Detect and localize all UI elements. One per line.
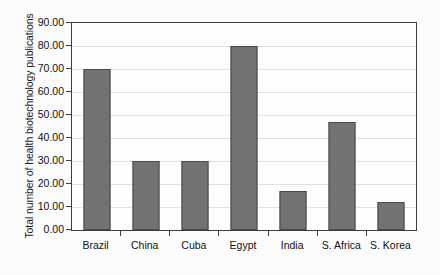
bar-slot [219,23,268,230]
y-axis-tick-labels: 0.0010.0020.0030.0040.0050.0060.0070.008… [14,22,64,231]
bar-slot [170,23,219,230]
y-axis-tick-label: 90.00 [18,17,64,27]
y-axis-tick-label: 40.00 [18,132,64,142]
y-axis-tick-mark [66,183,71,184]
y-axis-tick-label: 10.00 [18,201,64,211]
bar-slot [269,23,318,230]
x-axis-tick-mark [169,231,170,236]
bar-s-africa[interactable] [329,122,356,230]
x-axis-tick-mark [317,231,318,236]
bar-brazil[interactable] [83,69,110,230]
x-axis-label-brazil: Brazil [71,239,120,251]
bar-egypt[interactable] [230,46,257,230]
bar-chart: Total number of health biotechnology pub… [0,0,440,275]
x-axis-category-labels: BrazilChinaCubaEgyptIndiaS. AfricaS. Kor… [71,239,417,259]
bar-slot [121,23,170,230]
x-axis-tick-mark [366,231,367,236]
x-axis-tick-mark [268,231,269,236]
x-axis-tick-mark [120,231,121,236]
x-axis-label-cuba: Cuba [169,239,218,251]
bar-slot [72,23,121,230]
bar-slot [367,23,416,230]
y-axis-tick-label: 20.00 [18,178,64,188]
y-axis-tick-mark [66,206,71,207]
bar-s-korea[interactable] [378,202,405,230]
x-axis-tick-mark [218,231,219,236]
x-axis-tick-marks [71,231,417,237]
bar-slot [318,23,367,230]
y-axis-tick-mark [66,229,71,230]
x-axis-label-china: China [120,239,169,251]
y-axis-tick-label: 0.00 [18,224,64,234]
y-axis-tick-label: 50.00 [18,109,64,119]
bar-china[interactable] [132,161,159,230]
y-axis-tick-mark [66,114,71,115]
x-axis-label-s-africa: S. Africa [317,239,366,251]
y-axis-tick-label: 30.00 [18,155,64,165]
y-axis-tick-mark [66,137,71,138]
y-axis-tick-label: 80.00 [18,40,64,50]
bar-india[interactable] [280,191,307,230]
bars-group [72,23,416,230]
y-axis-tick-label: 70.00 [18,63,64,73]
y-axis-tick-label: 60.00 [18,86,64,96]
y-axis-tick-mark [66,91,71,92]
x-axis-label-india: India [268,239,317,251]
y-axis-tick-mark [66,160,71,161]
y-axis-tick-mark [66,68,71,69]
x-axis-label-egypt: Egypt [218,239,267,251]
y-axis-tick-mark [66,22,71,23]
bar-cuba[interactable] [181,161,208,230]
x-axis-label-s-korea: S. Korea [366,239,415,251]
y-axis-tick-mark [66,45,71,46]
